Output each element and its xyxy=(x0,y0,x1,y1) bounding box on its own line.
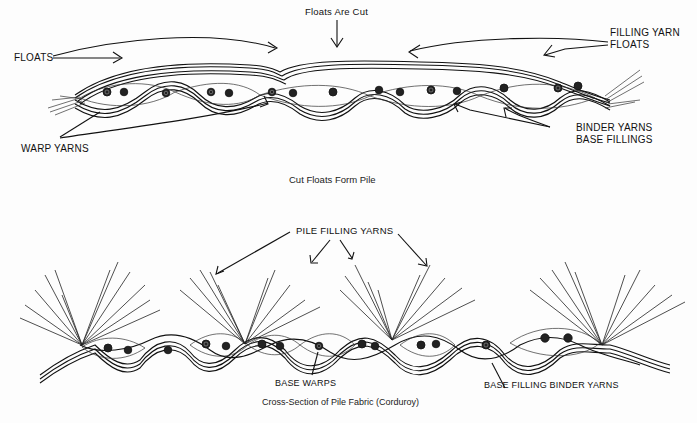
top-base-filling-outlines xyxy=(80,83,595,108)
filling-yarn-label: FILLING YARN xyxy=(610,27,680,38)
fabric-diagram xyxy=(0,0,697,423)
warp-yarns-label: WARP YARNS xyxy=(21,143,89,154)
bottom-base-weave xyxy=(40,335,670,383)
base-warps-label: BASE WARPS xyxy=(275,378,336,388)
top-arrows xyxy=(53,20,608,138)
base-filling-binder-yarns-label: BASE FILLING BINDER YARNS xyxy=(484,380,619,390)
pile-filling-yarns-label: PILE FILLING YARNS xyxy=(296,225,393,236)
floats-label: FLOATS xyxy=(14,52,53,63)
bottom-caption: Cross-Section of Pile Fabric (Corduroy) xyxy=(262,397,419,407)
binder-yarns-label: BINDER YARNS xyxy=(576,122,653,133)
top-float-yarns xyxy=(75,61,610,106)
floats-are-cut-label: Floats Are Cut xyxy=(305,6,368,17)
base-fillings-label: BASE FILLINGS xyxy=(576,134,653,145)
filling-yarn-floats-label: FLOATS xyxy=(610,39,649,50)
top-caption: Cut Floats Form Pile xyxy=(289,174,376,185)
pile-tufts xyxy=(20,262,685,345)
